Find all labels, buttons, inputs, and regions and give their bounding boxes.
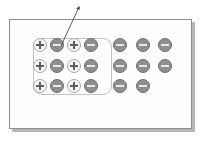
negative-charge-r3c6 xyxy=(136,79,150,93)
negative-charge-r2c4 xyxy=(84,59,98,73)
minus-icon xyxy=(161,62,169,70)
negative-charge-r3c2 xyxy=(50,79,64,93)
positive-charge-r1c1 xyxy=(33,38,47,52)
positive-charge-r3c1 xyxy=(33,79,47,93)
negative-charge-r1c2 xyxy=(50,38,64,52)
positive-charge-r2c1 xyxy=(33,59,47,73)
minus-icon xyxy=(87,62,95,70)
minus-icon xyxy=(161,41,169,49)
plus-icon xyxy=(70,41,78,49)
negative-charge-r1c5 xyxy=(113,38,127,52)
minus-icon xyxy=(53,82,61,90)
positive-charge-r3c3 xyxy=(67,79,81,93)
negative-charge-r2c2 xyxy=(50,59,64,73)
negative-charge-r1c7 xyxy=(158,38,172,52)
minus-icon xyxy=(139,62,147,70)
figure-canvas xyxy=(0,0,203,141)
plus-icon xyxy=(36,62,44,70)
plus-icon xyxy=(70,82,78,90)
minus-icon xyxy=(87,41,95,49)
plus-icon xyxy=(36,82,44,90)
minus-icon xyxy=(116,41,124,49)
minus-icon xyxy=(116,62,124,70)
positive-charge-r2c3 xyxy=(67,59,81,73)
negative-charge-r3c4 xyxy=(84,79,98,93)
negative-charge-r2c5 xyxy=(113,59,127,73)
negative-charge-r2c7 xyxy=(158,59,172,73)
plus-icon xyxy=(70,62,78,70)
minus-icon xyxy=(139,41,147,49)
minus-icon xyxy=(87,82,95,90)
minus-icon xyxy=(116,82,124,90)
minus-icon xyxy=(53,41,61,49)
minus-icon xyxy=(139,82,147,90)
minus-icon xyxy=(53,62,61,70)
negative-charge-r3c5 xyxy=(113,79,127,93)
negative-charge-r2c6 xyxy=(136,59,150,73)
positive-charge-r1c3 xyxy=(67,38,81,52)
plus-icon xyxy=(36,41,44,49)
negative-charge-r1c6 xyxy=(136,38,150,52)
negative-charge-r1c4 xyxy=(84,38,98,52)
